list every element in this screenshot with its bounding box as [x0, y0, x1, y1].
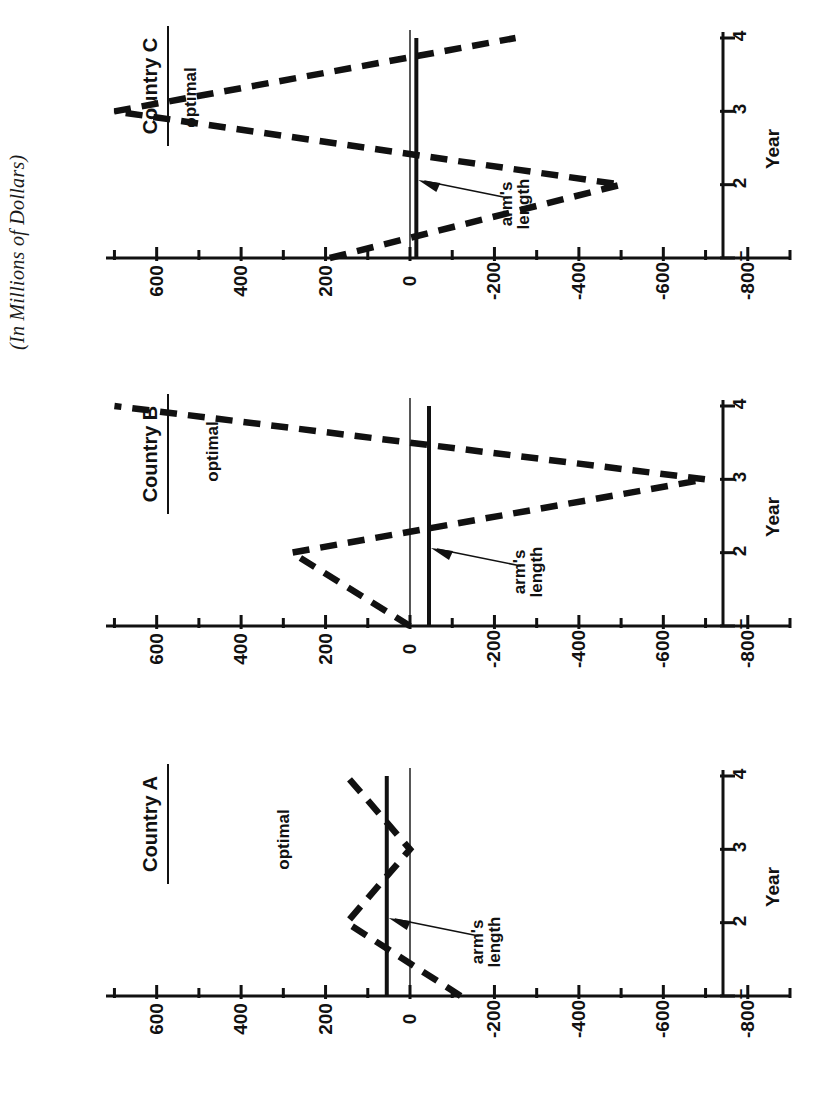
year-tick-label: 2: [729, 538, 751, 564]
year-tick-label: 4: [729, 23, 751, 49]
x-axis-title: Year: [762, 857, 784, 917]
dollar-tick-label: 0: [399, 251, 421, 311]
dollar-tick-label: -400: [568, 619, 590, 679]
x-axis-title: Year: [762, 487, 784, 547]
year-tick-label: 2: [729, 170, 751, 196]
dollar-tick-label: -600: [652, 989, 674, 1049]
arms-length-line-2: length: [528, 539, 545, 605]
dollar-tick-label: -600: [652, 251, 674, 311]
arms-length-line-1: arm's: [498, 171, 515, 237]
arms-length-callout: [418, 180, 508, 198]
year-tick-label: 3: [729, 96, 751, 122]
year-tick-label: 3: [729, 464, 751, 490]
dollar-tick-label: 200: [315, 989, 337, 1049]
dollar-tick-label: 400: [230, 619, 252, 679]
dollar-tick-label: 200: [315, 251, 337, 311]
dollar-tick-label: -200: [483, 619, 505, 679]
series-label-optimal: optimal: [182, 62, 199, 134]
arms-length-line-2: length: [486, 909, 503, 975]
arms-length-line-1: arm's: [469, 909, 486, 975]
series-label-arms-length: arm'slength: [498, 171, 532, 237]
dollar-tick-label: 600: [146, 989, 168, 1049]
dollar-tick-label: 400: [230, 989, 252, 1049]
year-tick-label: –: [729, 981, 751, 1007]
dollar-tick-label: -400: [568, 251, 590, 311]
dollar-tick-label: 0: [399, 989, 421, 1049]
dollar-tick-label: 600: [146, 619, 168, 679]
arms-length-callout: [389, 918, 479, 936]
year-tick-label: 2: [729, 908, 751, 934]
dollar-tick-label: -200: [483, 989, 505, 1049]
dollar-tick-label: -600: [652, 619, 674, 679]
panel-title: Country B: [139, 394, 169, 514]
arms-length-callout: [431, 548, 521, 566]
dollar-tick-label: -400: [568, 989, 590, 1049]
dollar-tick-label: 600: [146, 251, 168, 311]
series-label-arms-length: arm'slength: [469, 909, 503, 975]
panel-title: Country A: [139, 764, 169, 884]
year-tick-label: 4: [729, 391, 751, 417]
series-label-arms-length: arm'slength: [511, 539, 545, 605]
dollar-tick-label: 200: [315, 619, 337, 679]
series-optimal: [347, 776, 461, 996]
year-tick-label: 3: [729, 834, 751, 860]
series-label-optimal: optimal: [275, 804, 292, 876]
dollar-tick-label: 400: [230, 251, 252, 311]
dollar-tick-label: 0: [399, 619, 421, 679]
x-axis-title: Year: [762, 119, 784, 179]
dollar-tick-label: -200: [483, 251, 505, 311]
arms-length-line-1: arm's: [511, 539, 528, 605]
arms-length-line-2: length: [515, 171, 532, 237]
panel-title: Country C: [139, 26, 169, 146]
year-tick-label: –: [729, 611, 751, 637]
year-tick-label: 4: [729, 761, 751, 787]
year-tick-label: –: [729, 243, 751, 269]
series-label-optimal: optimal: [203, 415, 220, 487]
